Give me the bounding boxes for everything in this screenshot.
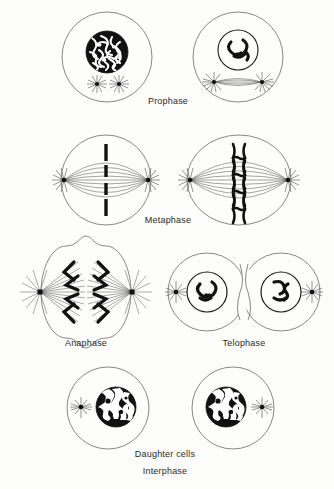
label-prophase: Prophase bbox=[148, 96, 188, 106]
cell-prophase-early bbox=[62, 12, 152, 102]
stage-interphase bbox=[67, 367, 274, 449]
nucleus-telophase-right bbox=[261, 272, 301, 312]
stage-anaphase bbox=[20, 236, 152, 348]
nucleus-mottled-chromatin bbox=[206, 387, 246, 427]
label-telophase: Telophase bbox=[223, 338, 266, 348]
label-daughter-cells: Daughter cells bbox=[135, 449, 195, 459]
label-anaphase: Anaphase bbox=[65, 338, 107, 348]
cell-metaphase-left bbox=[52, 135, 160, 225]
nucleus-dense-chromatin bbox=[86, 31, 128, 73]
stage-metaphase bbox=[52, 135, 300, 225]
label-interphase: Interphase bbox=[143, 466, 188, 476]
nucleus-mottled-chromatin bbox=[96, 387, 136, 427]
mitosis-diagram-page: Prophase Metaphase Anaphase Telophase Da… bbox=[0, 0, 334, 489]
label-metaphase: Metaphase bbox=[145, 215, 191, 225]
cell-prophase-late bbox=[193, 12, 283, 102]
nucleus-telophase-left bbox=[187, 272, 227, 312]
cell-metaphase-right bbox=[178, 135, 300, 225]
mitosis-diagram-svg bbox=[0, 0, 334, 489]
cell-daughter-right bbox=[192, 367, 274, 449]
cell-daughter-left bbox=[67, 367, 149, 449]
stage-prophase bbox=[62, 12, 283, 102]
nuclear-envelope bbox=[218, 30, 258, 70]
